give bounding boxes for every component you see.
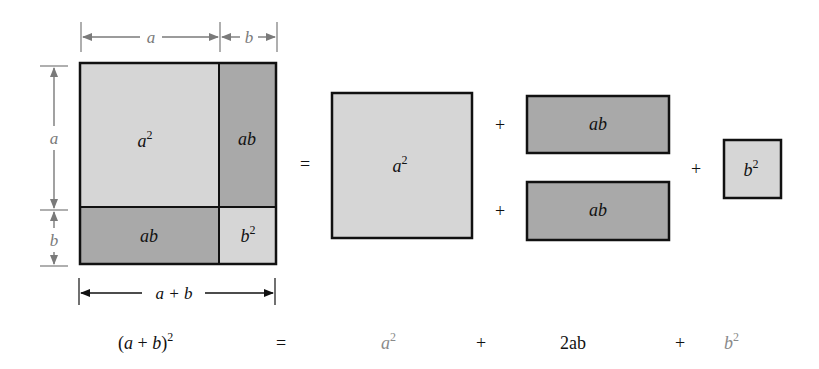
dim-label-a: a bbox=[147, 28, 156, 47]
decomposition: = a2 + ab + ab + b2 bbox=[300, 93, 781, 240]
equation-lhs: (a + b)2 bbox=[118, 330, 173, 354]
composite-square: a2 ab ab b2 bbox=[80, 63, 276, 264]
top-dimension: a b bbox=[81, 22, 277, 52]
equation-term-2ab: 2ab bbox=[560, 333, 586, 353]
dim-label-a-plus-b: a + b bbox=[156, 284, 193, 303]
equation: (a + b)2 = a2 + 2ab + b2 bbox=[118, 330, 739, 354]
equation-plus: + bbox=[675, 333, 685, 353]
label-ab-right: ab bbox=[238, 129, 256, 149]
label-ab-bottom: ab bbox=[589, 200, 607, 220]
plus-sign: + bbox=[691, 159, 701, 179]
bottom-dimension: a + b bbox=[79, 278, 275, 305]
dim-label-b: b bbox=[50, 231, 59, 250]
equation-term-a-squared: a2 bbox=[381, 330, 396, 353]
plus-sign: + bbox=[495, 115, 505, 135]
plus-sign: + bbox=[495, 201, 505, 221]
label-ab-top: ab bbox=[589, 114, 607, 134]
equals-sign: = bbox=[300, 154, 310, 174]
equation-plus: + bbox=[476, 333, 486, 353]
binomial-square-diagram: a b a b a2 ab ab b2 a + b bbox=[0, 0, 819, 369]
side-dimension: a b bbox=[40, 66, 68, 266]
equation-equals: = bbox=[276, 333, 286, 353]
dim-label-b: b bbox=[245, 28, 254, 47]
equation-term-b-squared: b2 bbox=[724, 330, 739, 353]
dim-label-a: a bbox=[50, 129, 59, 148]
label-ab-bottom: ab bbox=[140, 226, 158, 246]
